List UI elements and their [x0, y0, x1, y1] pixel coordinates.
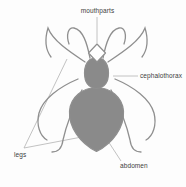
- label-mouthparts: mouthparts: [81, 7, 115, 15]
- leader-legs-lower: [24, 136, 87, 148]
- abdomen-shape: [69, 88, 123, 152]
- spider-diagram-svg: mouthparts cephalothorax legs abdomen: [0, 0, 186, 187]
- leg-right-second: [108, 28, 147, 62]
- spider-anatomy-diagram: mouthparts cephalothorax legs abdomen: [0, 0, 186, 187]
- label-legs: legs: [14, 151, 27, 159]
- cephalothorax-shape: [85, 58, 109, 89]
- leg-right-front: [103, 28, 125, 58]
- label-cephalothorax: cephalothorax: [140, 72, 183, 80]
- leg-left-front: [68, 28, 90, 58]
- leader-legs-upper: [24, 59, 67, 148]
- leg-left-second: [46, 28, 85, 62]
- label-abdomen: abdomen: [120, 162, 148, 169]
